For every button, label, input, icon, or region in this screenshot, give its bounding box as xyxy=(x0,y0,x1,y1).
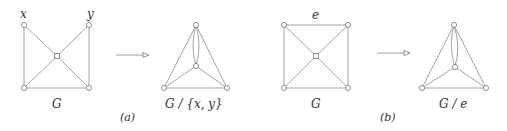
vertex-center xyxy=(55,54,60,59)
arrowhead-icon xyxy=(143,53,149,58)
caption-a: (a) xyxy=(120,111,135,124)
caption-b: (b) xyxy=(380,111,396,124)
vertex-y xyxy=(86,22,91,27)
edge-label-e: e xyxy=(312,8,319,22)
vertex-label-x: x xyxy=(20,7,27,21)
vertex-bottom-left xyxy=(419,85,424,90)
graph-contracted-e: G / e xyxy=(419,22,488,111)
vertex-label-y: y xyxy=(86,7,94,21)
vertex-bottom-right xyxy=(224,85,229,90)
vertex-top-left xyxy=(281,22,286,27)
graph-g-panel-a: x y G xyxy=(20,7,94,111)
graph-name-g: G xyxy=(52,97,62,111)
graph-name-contracted-xy: G / {x, y} xyxy=(165,97,223,111)
vertex-x xyxy=(21,22,26,27)
vertex-bottom-left xyxy=(161,85,166,90)
vertex-bottom-right xyxy=(345,85,350,90)
graph-g-panel-b: e G xyxy=(281,8,350,111)
vertex-center xyxy=(452,64,457,69)
arrow-b xyxy=(377,51,410,56)
vertex-bottom-right xyxy=(86,85,91,90)
vertex-merged-e xyxy=(451,22,456,27)
arrow-a xyxy=(116,53,149,58)
vertex-top-right xyxy=(345,22,350,27)
vertex-bottom-left xyxy=(281,85,286,90)
vertex-merged-xy xyxy=(193,22,198,27)
graph-contraction-diagram: x y G G / {x, y} (a) xyxy=(0,0,507,131)
vertex-center xyxy=(314,54,319,59)
vertex-bottom-right xyxy=(483,85,488,90)
graph-contracted-xy: G / {x, y} xyxy=(161,22,229,111)
vertex-center xyxy=(193,63,198,68)
arrowhead-icon xyxy=(404,51,410,56)
graph-name-g: G xyxy=(311,97,321,111)
vertex-bottom-left xyxy=(21,85,26,90)
graph-name-contracted-e: G / e xyxy=(439,97,467,111)
